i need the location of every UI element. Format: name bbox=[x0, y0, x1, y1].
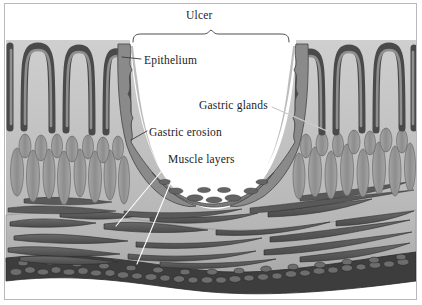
label-gastric-glands: Gastric glands bbox=[199, 99, 268, 111]
gastric-ulcer-figure: Ulcer Epithelium Gastric glands Gastric … bbox=[0, 0, 422, 305]
label-muscle-layers: Muscle layers bbox=[168, 153, 235, 165]
illustration-body bbox=[6, 4, 416, 294]
label-epithelium: Epithelium bbox=[144, 54, 197, 66]
label-gastric-erosion: Gastric erosion bbox=[149, 126, 222, 138]
label-ulcer: Ulcer bbox=[186, 9, 213, 21]
